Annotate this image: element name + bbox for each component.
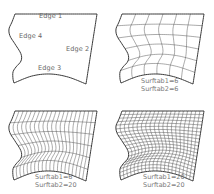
patch-boundary bbox=[116, 14, 204, 84]
mesh-panel-6x20 bbox=[9, 111, 97, 181]
mesh-panel-6x6 bbox=[116, 14, 204, 84]
edge-4-label: Edge 4 bbox=[19, 33, 42, 40]
surftab2-value: Surftab2=20 bbox=[143, 182, 185, 190]
panel-20x20-caption: Surftab1=20 Surftab2=20 bbox=[143, 174, 185, 189]
surftab2-value: Surftab2=6 bbox=[141, 86, 178, 94]
edge-2-label: Edge 2 bbox=[66, 46, 89, 53]
mesh-panel-20x20 bbox=[116, 111, 204, 181]
surftab2-value: Surftab2=20 bbox=[35, 182, 77, 190]
mesh-line-v bbox=[117, 24, 202, 26]
edge-1-label: Edge 1 bbox=[39, 13, 62, 20]
edge-3-label: Edge 3 bbox=[38, 65, 61, 72]
panel-6x20-caption: Surftab1=6 Surftab2=20 bbox=[35, 174, 77, 189]
mesh-line-v bbox=[128, 54, 196, 60]
panel-6x6-caption: Surftab1=6 Surftab2=6 bbox=[141, 78, 178, 93]
figure-canvas bbox=[0, 0, 214, 194]
